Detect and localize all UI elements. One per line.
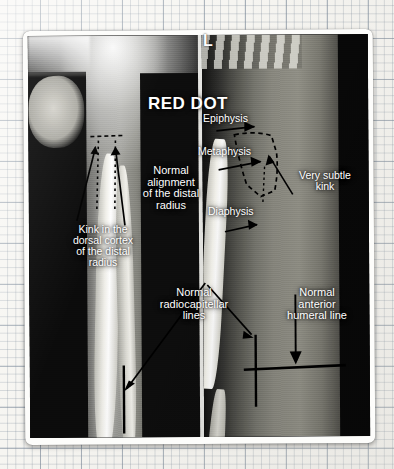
lateral-collimation-right bbox=[338, 34, 370, 436]
lateral-metacarpals bbox=[202, 34, 302, 69]
radiograph-image bbox=[28, 34, 370, 438]
printed-photo bbox=[23, 29, 376, 445]
ap-hand-soft-tissue bbox=[28, 36, 90, 76]
ap-carpal-bones bbox=[28, 76, 84, 148]
ap-collimation-right bbox=[140, 73, 200, 437]
lateral-view-panel bbox=[202, 34, 370, 437]
ap-view-panel bbox=[28, 35, 200, 438]
